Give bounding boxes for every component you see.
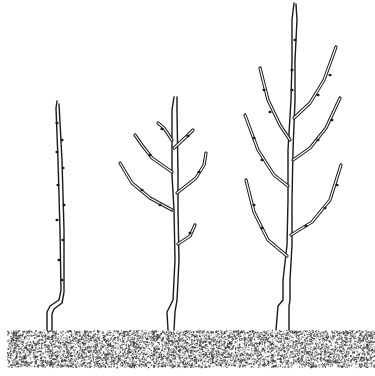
- bud-icon: [55, 151, 58, 154]
- illustration-canvas: Three young tree saplings at successive …: [0, 0, 375, 376]
- bud-icon: [293, 39, 296, 42]
- bud-icon: [158, 204, 161, 207]
- tree-branch: [294, 47, 336, 118]
- bud-icon: [290, 89, 293, 92]
- bud-icon: [197, 171, 200, 174]
- tree-branch-fill: [177, 153, 206, 193]
- bud-icon: [335, 184, 338, 187]
- bud-icon: [186, 135, 189, 138]
- bud-icon: [330, 119, 333, 122]
- tree-branch: [246, 180, 287, 256]
- bud-icon: [160, 128, 163, 131]
- tree-trunk-outline: [276, 3, 294, 330]
- bud-icon: [316, 139, 319, 142]
- bud-icon: [262, 89, 265, 92]
- ground-soil: [7, 330, 375, 368]
- tree-branch: [177, 153, 206, 193]
- bud-icon: [290, 69, 293, 72]
- bud-icon: [260, 227, 263, 230]
- trees-group: [47, 3, 341, 330]
- tree-branch-fill: [293, 98, 340, 160]
- bud-icon: [61, 167, 64, 170]
- bud-icon: [60, 279, 63, 282]
- tree-2: [120, 97, 206, 330]
- tree-branch: [135, 135, 172, 172]
- bud-icon: [188, 232, 191, 235]
- tree-branch: [260, 68, 290, 140]
- tree-trunk-outline: [52, 104, 64, 330]
- tree-3: [245, 3, 341, 330]
- tree-branch: [120, 163, 172, 210]
- bud-icon: [61, 239, 64, 242]
- bud-icon: [60, 139, 63, 142]
- bud-icon: [268, 111, 271, 114]
- bud-icon: [252, 137, 255, 140]
- bud-icon: [57, 259, 60, 262]
- bud-icon: [316, 94, 319, 97]
- bud-icon: [55, 122, 58, 125]
- tree-1: [47, 101, 66, 330]
- tree-branch-fill: [294, 47, 336, 118]
- bud-icon: [328, 74, 331, 77]
- bud-icon: [140, 189, 143, 192]
- bud-icon: [56, 184, 59, 187]
- bud-icon: [323, 207, 326, 210]
- tree-branch: [293, 98, 340, 160]
- tree-branch-fill: [291, 165, 341, 235]
- tree-branch-fill: [246, 180, 287, 256]
- tree-trunk-outline: [47, 101, 61, 330]
- bud-icon: [62, 204, 65, 207]
- tree-branch-fill: [260, 68, 290, 140]
- tree-trunk-outline: [289, 4, 297, 330]
- bud-icon: [260, 159, 263, 162]
- bud-icon: [252, 204, 255, 207]
- bud-icon: [148, 154, 151, 157]
- tree-branch: [178, 225, 195, 244]
- tree-branch: [291, 165, 341, 235]
- tree-branch-fill: [120, 163, 172, 210]
- bud-icon: [55, 219, 58, 222]
- bud-icon: [304, 225, 307, 228]
